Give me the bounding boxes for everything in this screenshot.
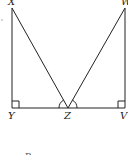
right-angle-marker-y bbox=[12, 101, 19, 108]
label-z: Z bbox=[63, 110, 72, 121]
stray-dot bbox=[1, 19, 2, 20]
segment-xz bbox=[12, 8, 68, 108]
label-v: V bbox=[120, 110, 128, 121]
segment-wz bbox=[68, 8, 125, 108]
footer-label: B bbox=[25, 152, 32, 155]
geometry-diagram: X W Y Z V B bbox=[0, 0, 128, 155]
angle-arc-z-left bbox=[59, 100, 64, 108]
label-y: Y bbox=[8, 110, 16, 121]
label-x: X bbox=[7, 0, 16, 7]
label-w: W bbox=[121, 0, 128, 7]
right-angle-marker-v bbox=[118, 101, 125, 108]
angle-arc-z-right bbox=[72, 100, 77, 108]
